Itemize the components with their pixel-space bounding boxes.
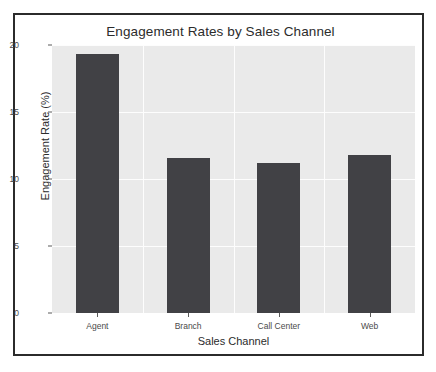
gridline-vertical (143, 45, 144, 313)
chart-title: Engagement Rates by Sales Channel (15, 24, 426, 39)
gridline-vertical (234, 45, 235, 313)
x-tick-label: Web (325, 321, 415, 331)
x-tick-mark (188, 313, 189, 317)
x-tick-mark (370, 313, 371, 317)
chart-figure: Engagement Rates by Sales Channel Engage… (13, 13, 424, 356)
y-axis-label: Engagement Rate (%) (39, 31, 51, 261)
y-tick-mark (48, 45, 52, 46)
y-tick-mark (48, 313, 52, 314)
x-axis-label: Sales Channel (52, 335, 415, 347)
plot-area (52, 45, 415, 313)
bar (167, 158, 210, 313)
y-tick-mark (48, 246, 52, 247)
y-tick-mark (48, 112, 52, 113)
x-tick-label: Call Center (234, 321, 324, 331)
x-tick-label: Branch (143, 321, 233, 331)
y-tick-label: 0 (0, 308, 19, 318)
y-tick-label: 5 (0, 241, 19, 251)
x-tick-mark (279, 313, 280, 317)
x-tick-mark (97, 313, 98, 317)
y-tick-label: 20 (0, 40, 19, 50)
bar (257, 163, 300, 313)
gridline-vertical (324, 45, 325, 313)
y-tick-mark (48, 179, 52, 180)
bar (348, 155, 391, 313)
y-tick-label: 10 (0, 174, 19, 184)
bar (76, 54, 119, 313)
x-tick-label: Agent (52, 321, 142, 331)
y-tick-label: 15 (0, 107, 19, 117)
